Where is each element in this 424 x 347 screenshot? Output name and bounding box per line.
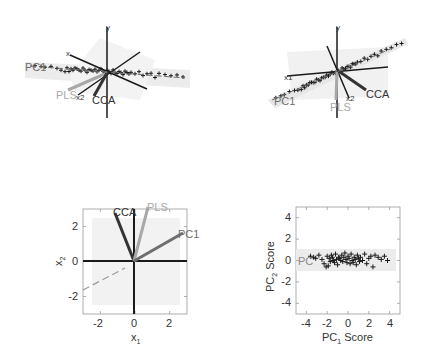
y-tick-label: 0 xyxy=(72,255,78,267)
pls-label: PLS xyxy=(147,201,168,213)
cca-label: CCA xyxy=(92,94,116,106)
x2-axis-label: x2 xyxy=(76,93,85,102)
x-tick-label: -2 xyxy=(322,317,332,329)
x-axis-label: PC1 Score xyxy=(322,331,373,345)
x-tick-label: 4 xyxy=(387,317,393,329)
y-tick-label: -2 xyxy=(281,275,291,287)
x-tick-label: -2 xyxy=(93,317,103,329)
panel-3d-view-2: y x1 PC1 PLS x2 CCA xyxy=(268,23,408,118)
y-tick-label: 4 xyxy=(285,211,291,223)
y-tick-label: 0 xyxy=(285,254,291,266)
pls-vector xyxy=(336,70,337,100)
cca-label: CCA xyxy=(366,88,390,100)
x2-axis-label: x2 xyxy=(346,94,355,103)
x-tick-label: -4 xyxy=(301,317,311,329)
y-tick-label: 2 xyxy=(285,232,291,244)
x-tick-label: 0 xyxy=(131,317,137,329)
y-axis-label: y xyxy=(336,23,340,32)
pc-inset-label: PC xyxy=(298,255,313,267)
pc1-label: PC1 xyxy=(274,95,295,107)
x-tick-label: 2 xyxy=(366,317,372,329)
x-tick-label: 2 xyxy=(166,317,172,329)
x-axis-label: x1 xyxy=(131,331,141,345)
y-axis-label: y xyxy=(106,23,110,32)
panel-vectors-2d: CCA PLS PC1 -2 0 2 2 0 -2 x1 x2 xyxy=(52,201,199,345)
y-tick-label: -2 xyxy=(68,290,78,302)
pc1-label: PC1 xyxy=(25,61,46,73)
pc1-label: PC1 xyxy=(178,228,199,240)
figure-canvas: y x PC1 PLS x2 CCA y x1 PC1 PLS x2 CCA C… xyxy=(0,0,424,347)
panel-3d-view-1: y x PC1 PLS x2 CCA xyxy=(25,23,190,118)
x1-axis-label: x xyxy=(66,49,70,58)
cca-label: CCA xyxy=(113,206,137,218)
y-axis-label: x2 xyxy=(52,257,66,267)
x1-axis-label: x1 xyxy=(284,73,293,82)
y-tick-label: -4 xyxy=(281,296,291,308)
y-axis-label: PC2 Score xyxy=(264,241,278,292)
pls-label: PLS xyxy=(56,89,77,101)
panel-pc-scores: PC -4 -2 0 2 4 4 2 0 -2 -4 PC1 Score PC2… xyxy=(264,207,400,345)
y-tick-label: 2 xyxy=(72,220,78,232)
x-tick-label: 0 xyxy=(345,317,351,329)
